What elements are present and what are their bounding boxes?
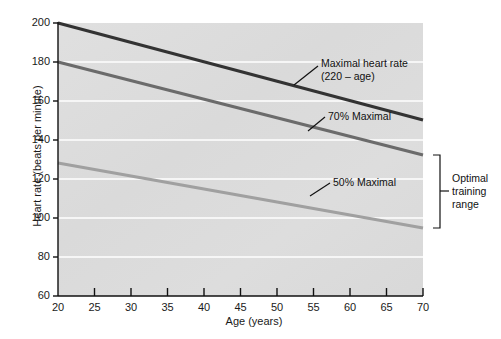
annotation-70-percent-maximal: 70% Maximal (328, 110, 391, 123)
annotation-50-percent-maximal: 50% Maximal (333, 176, 396, 189)
y-tick-label-200: 200 (16, 16, 50, 28)
x-tick-label-25: 25 (75, 301, 115, 313)
y-tick-label-120: 120 (16, 172, 50, 184)
y-tick-label-140: 140 (16, 133, 50, 145)
x-tick-label-30: 30 (111, 301, 151, 313)
y-tick-label-80: 80 (16, 250, 50, 262)
x-tick-label-45: 45 (221, 301, 261, 313)
x-tick-label-65: 65 (367, 301, 407, 313)
x-tick-label-40: 40 (184, 301, 224, 313)
heart-rate-chart: Heart rate (beats per minute) Age (years… (0, 0, 501, 339)
y-tick-marks (53, 23, 58, 296)
x-tick-label-50: 50 (257, 301, 297, 313)
y-tick-label-60: 60 (16, 289, 50, 301)
x-tick-label-60: 60 (330, 301, 370, 313)
optimal-training-range-bracket (433, 155, 449, 228)
annotation-optimal-training-range-line1: Optimal (452, 172, 488, 185)
x-tick-label-35: 35 (148, 301, 188, 313)
chart-canvas (0, 0, 501, 339)
annotation-maximal-heart-rate-line2: (220 – age) (321, 70, 375, 83)
annotation-optimal-training-range-line2: training (452, 185, 486, 198)
y-tick-label-180: 180 (16, 55, 50, 67)
x-tick-label-70: 70 (403, 301, 443, 313)
y-tick-label-160: 160 (16, 94, 50, 106)
y-axis-title: Heart rate (beats per minute) (31, 56, 43, 256)
x-tick-label-55: 55 (294, 301, 334, 313)
y-tick-label-100: 100 (16, 211, 50, 223)
x-axis-title: Age (years) (194, 315, 314, 327)
x-tick-label-20: 20 (38, 301, 78, 313)
annotation-optimal-training-range-line3: range (452, 198, 479, 211)
annotation-maximal-heart-rate-line1: Maximal heart rate (321, 57, 408, 70)
